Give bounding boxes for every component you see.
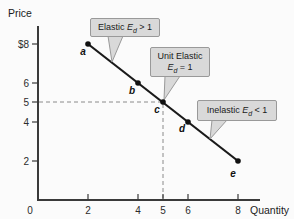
point-d <box>185 119 191 125</box>
point-b <box>135 80 141 86</box>
y-tick-4: 4 <box>23 117 29 128</box>
y-tick-6: 6 <box>23 78 29 89</box>
callout-unit-elastic: Unit Elastic Ed = 1 <box>150 47 210 77</box>
point-a <box>85 41 91 47</box>
point-c <box>160 99 166 105</box>
x-tick-6: 6 <box>185 205 191 216</box>
origin-label: 0 <box>27 205 33 216</box>
dashed-guides <box>39 102 163 198</box>
elasticity-demand-chart: a b c d e Price Quantity $8 6 5 4 2 0 2 … <box>0 0 294 219</box>
point-c-label: c <box>154 104 160 115</box>
y-tick-2: 2 <box>23 156 29 167</box>
point-e <box>235 158 241 164</box>
callout-elastic-tail <box>108 36 123 62</box>
callout-elastic-text: Elastic Ed > 1 <box>98 22 152 33</box>
callout-inelastic: Inelastic Ed < 1 <box>197 100 277 121</box>
callout-unit-tail <box>164 76 180 100</box>
x-tick-2: 2 <box>85 205 91 216</box>
point-a-label: a <box>80 46 86 57</box>
x-tick-8: 8 <box>235 205 241 216</box>
callout-unit-elastic-text: Unit Elastic Ed = 1 <box>157 51 202 74</box>
x-tick-4: 4 <box>135 205 141 216</box>
x-tick-5: 5 <box>160 205 166 216</box>
callout-inelastic-text: Inelastic Ed < 1 <box>207 105 268 116</box>
x-axis-title: Quantity <box>250 204 290 216</box>
point-e-label: e <box>230 168 236 179</box>
y-tick-8: $8 <box>18 39 30 50</box>
point-b-label: b <box>129 85 135 96</box>
point-d-label: d <box>179 123 186 134</box>
callout-inelastic-tail <box>210 120 227 139</box>
y-tick-5: 5 <box>23 97 29 108</box>
callout-elastic: Elastic Ed > 1 <box>90 18 160 37</box>
y-axis-title: Price <box>8 7 32 19</box>
